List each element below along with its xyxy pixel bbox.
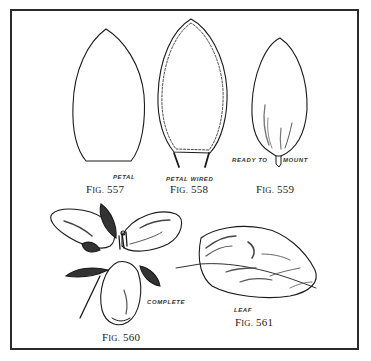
label-ready-to: READY TO [232, 157, 268, 163]
complete-flower-drawing [51, 204, 182, 325]
leaf-drawing [176, 226, 316, 297]
caption-small: IG. [176, 185, 188, 195]
caption-small: IG. [92, 185, 104, 195]
label-leaf: LEAF [234, 307, 252, 313]
caption-small: IG. [108, 333, 120, 343]
caption-number: 561 [256, 316, 273, 328]
caption-number: 559 [277, 183, 294, 195]
caption-number: 557 [107, 183, 124, 195]
caption-fig-559: FIG. 559 [256, 183, 294, 195]
caption-number: 560 [123, 331, 140, 343]
label-complete: COMPLETE [147, 299, 185, 305]
label-mount: MOUNT [283, 157, 308, 163]
caption-fig-560: FIG. 560 [102, 331, 140, 343]
label-petal: PETAL [113, 174, 135, 180]
caption-fig-561: FIG. 561 [235, 316, 273, 328]
label-petal-wired: PETAL WIRED [166, 176, 213, 182]
caption-fig-557: FIG. 557 [86, 183, 124, 195]
ready-to-mount-drawing [252, 38, 307, 167]
caption-small: IG. [241, 318, 253, 328]
caption-number: 558 [191, 183, 208, 195]
caption-small: IG. [262, 185, 274, 195]
caption-fig-558: FIG. 558 [170, 183, 208, 195]
petal-wired-drawing [158, 19, 227, 167]
petal-drawing [73, 29, 145, 161]
